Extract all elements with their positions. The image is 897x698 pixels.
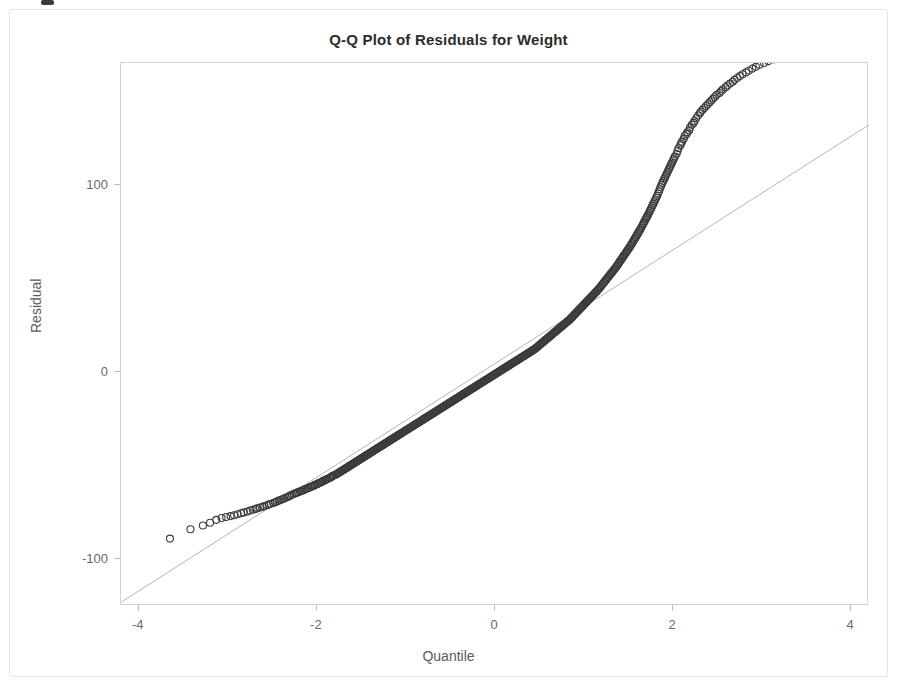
scatter-point bbox=[765, 63, 772, 65]
x-tick-label: 4 bbox=[847, 617, 854, 632]
y-tick-label: 100 bbox=[52, 176, 108, 191]
scatter-marker-group bbox=[166, 63, 823, 542]
scatter-point bbox=[187, 526, 194, 533]
x-tick-label: 0 bbox=[490, 617, 497, 632]
x-axis-title: Quantile bbox=[0, 648, 897, 664]
scatter-point bbox=[166, 535, 173, 542]
page-title: Q-Q Plot of Residuals for Weight bbox=[0, 31, 897, 48]
x-tick-label: 2 bbox=[668, 617, 675, 632]
scan-artifact-mark bbox=[41, 0, 54, 5]
plot-canvas bbox=[121, 63, 869, 606]
y-axis-title: Residual bbox=[28, 279, 44, 333]
scatter-point bbox=[199, 522, 206, 529]
x-tick-label: -2 bbox=[310, 617, 322, 632]
plot-frame bbox=[120, 62, 868, 605]
qq-plot-figure: Q-Q Plot of Residuals for Weight Residua… bbox=[0, 0, 897, 698]
y-tick-label: -100 bbox=[52, 551, 108, 566]
y-tick-label: 0 bbox=[52, 363, 108, 378]
reference-line bbox=[121, 125, 869, 602]
scatter-point bbox=[718, 88, 725, 95]
x-tick-label: -4 bbox=[132, 617, 144, 632]
